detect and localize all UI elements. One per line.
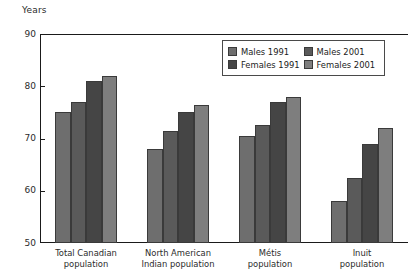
legend-swatch-icon <box>304 60 313 69</box>
legend-label: Males 2001 <box>317 47 365 57</box>
bar <box>147 149 163 243</box>
bar <box>362 144 378 243</box>
bar <box>331 201 347 243</box>
legend-label: Males 1991 <box>241 47 289 57</box>
legend-label: Females 1991 <box>241 60 300 70</box>
legend-item-males-2001: Males 2001 <box>304 47 380 57</box>
legend-row: Males 1991 Males 2001 <box>228 45 379 58</box>
bar-chart: Years 5060708090 Total Canadianpopulatio… <box>0 0 413 280</box>
bar <box>270 102 286 243</box>
x-axis-label-line: Inuit <box>308 248 413 259</box>
legend-swatch-icon <box>228 60 237 69</box>
legend-swatch-icon <box>304 47 313 56</box>
x-axis-label-line: population <box>308 259 413 270</box>
chart-legend: Males 1991 Males 2001 Females 1991 Femal… <box>222 40 385 76</box>
bar <box>378 128 394 243</box>
bar <box>55 112 71 243</box>
bar <box>347 178 363 243</box>
bar <box>86 81 102 243</box>
x-axis-label: Inuitpopulation <box>308 248 413 269</box>
legend-item-males-1991: Males 1991 <box>228 47 304 57</box>
bar <box>286 97 302 243</box>
legend-row: Females 1991 Females 2001 <box>228 58 379 71</box>
bar <box>102 76 118 243</box>
bar <box>71 102 87 243</box>
bar <box>178 112 194 243</box>
bar <box>239 136 255 243</box>
bar <box>255 125 271 243</box>
legend-item-females-2001: Females 2001 <box>304 60 380 70</box>
legend-item-females-1991: Females 1991 <box>228 60 304 70</box>
legend-label: Females 2001 <box>317 60 376 70</box>
bar <box>194 105 210 243</box>
legend-swatch-icon <box>228 47 237 56</box>
bar <box>163 131 179 243</box>
